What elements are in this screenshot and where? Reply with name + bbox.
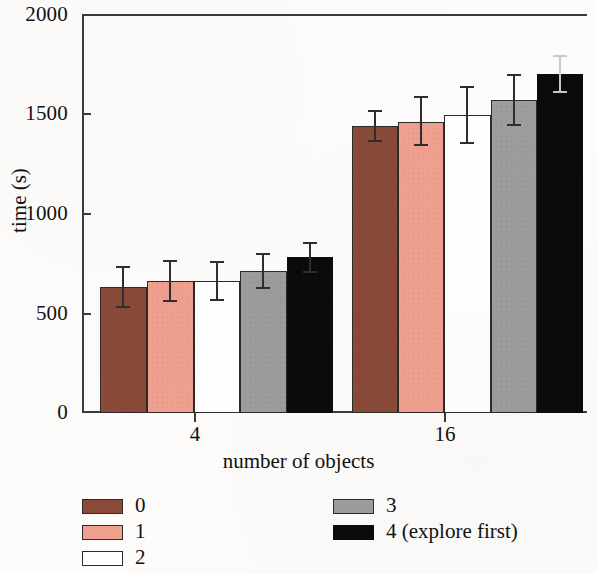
bar-group-16-series-4 [537,74,583,413]
legend-label-4: 4 (explore first) [386,519,518,544]
x-axis-tick-mark-4 [194,413,196,422]
bar-chart-figure: 2000 1500 1000 500 0 time (s) [0,0,597,574]
y-axis-tick-label-1500: 1500 [8,103,68,124]
x-axis-tick-label-4: 4 [165,422,225,447]
y-axis-tick-label-0: 0 [8,402,68,423]
legend-swatch-3 [333,499,374,514]
chart-legend: 0 1 2 3 4 (explore first) [0,493,597,574]
legend-label-1: 1 [135,519,146,544]
legend-label-3: 3 [386,493,397,518]
legend-swatch-2 [82,551,123,566]
x-axis-title: number of objects [0,449,597,474]
bar-group-16-series-3 [491,100,537,413]
bar-group-4-series-3 [240,271,287,413]
x-axis-tick-label-16: 16 [415,422,475,447]
x-axis-tick-mark-16 [444,413,446,422]
plot-area [82,14,587,413]
bar-group-16-series-1 [398,122,444,413]
legend-swatch-0 [82,499,123,514]
y-axis-title: time (s) [7,136,32,266]
y-axis-tick-label-2000: 2000 [8,4,68,25]
bar-group-4-series-4 [287,257,333,413]
bar-group-16-series-0 [352,126,398,413]
bar-group-16-series-2 [444,115,491,413]
legend-label-2: 2 [135,545,146,570]
legend-label-0: 0 [135,493,146,518]
y-axis-tick-label-500: 500 [8,303,68,324]
legend-swatch-4 [333,525,374,540]
legend-swatch-1 [82,525,123,540]
